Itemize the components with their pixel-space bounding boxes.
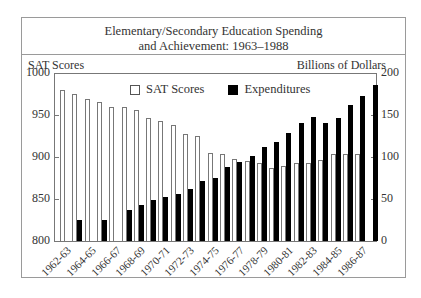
bar-sat-score xyxy=(60,90,65,241)
y-tick-left-label: 1000 xyxy=(22,65,50,80)
y-axis-right-label: Billions of Dollars xyxy=(297,58,386,73)
bar-expenditure xyxy=(77,220,82,241)
bar-expenditure xyxy=(188,189,193,241)
bar-expenditure xyxy=(360,96,365,241)
title-line-2: and Achievement: 1963–1988 xyxy=(21,39,406,54)
plot-area xyxy=(54,73,377,242)
y-tick-left-label: 800 xyxy=(22,233,50,248)
title-divider xyxy=(21,54,406,55)
bar-sat-score xyxy=(109,107,114,241)
bar-expenditure xyxy=(102,220,107,241)
bar-expenditure xyxy=(176,194,181,241)
y-tick-right-label: 100 xyxy=(381,149,399,164)
legend-label-expenditures: Expenditures xyxy=(244,82,310,97)
bar-sat-score xyxy=(85,99,90,241)
bar-expenditure xyxy=(225,167,230,241)
bar-expenditure xyxy=(336,118,341,241)
y-tick-left-label: 900 xyxy=(22,149,50,164)
bar-expenditure xyxy=(200,181,205,241)
bar-expenditure xyxy=(286,133,291,241)
bar-expenditure xyxy=(262,147,267,241)
bar-expenditure xyxy=(323,123,328,241)
bar-sat-score xyxy=(72,94,77,241)
bar-expenditure xyxy=(237,162,242,241)
legend-swatch-expenditures xyxy=(228,85,238,95)
y-tick-left-label: 950 xyxy=(22,107,50,122)
y-tick-left-label: 850 xyxy=(22,191,50,206)
y-tick-right-label: 200 xyxy=(381,65,399,80)
bar-expenditure xyxy=(274,142,279,241)
y-tick-right-label: 0 xyxy=(381,233,387,248)
bar-expenditure xyxy=(213,178,218,241)
bar-expenditure xyxy=(139,205,144,241)
y-tick-right-label: 150 xyxy=(381,107,399,122)
bar-expenditure xyxy=(151,200,156,241)
y-tick-right-label: 50 xyxy=(381,191,393,206)
title-line-1: Elementary/Secondary Education Spending xyxy=(21,24,406,39)
bar-expenditure xyxy=(311,117,316,241)
bar-expenditure xyxy=(163,197,168,241)
legend-label-sat: SAT Scores xyxy=(146,82,204,97)
bar-expenditure xyxy=(127,210,132,241)
bar-expenditure xyxy=(348,105,353,241)
bar-expenditure xyxy=(299,123,304,241)
legend-swatch-sat xyxy=(130,85,140,95)
chart-title: Elementary/Secondary Education Spending … xyxy=(21,24,406,54)
bar-expenditure xyxy=(373,85,378,241)
legend: SAT Scores Expenditures xyxy=(130,82,310,97)
bar-expenditure xyxy=(250,156,255,241)
